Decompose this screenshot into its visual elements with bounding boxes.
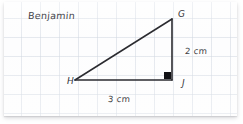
student-name-label: Benjamin <box>28 10 76 21</box>
vertex-label-g: G <box>178 9 185 19</box>
vertex-label-j: J <box>182 78 185 88</box>
triangle-side-hypotenuse-hg <box>75 19 172 80</box>
side-length-label-gj: 2 cm <box>185 46 208 56</box>
worksheet-card: Benjamin G H J 2 cm 3 cm <box>4 2 237 116</box>
vertex-label-h: H <box>67 76 74 86</box>
side-length-label-hj: 3 cm <box>108 94 131 104</box>
right-angle-square-icon <box>164 72 171 79</box>
